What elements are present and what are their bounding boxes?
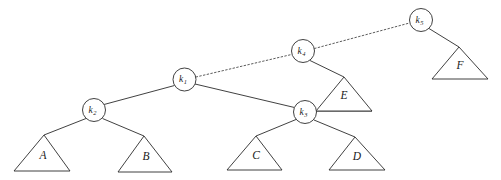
subtree-c: C: [227, 136, 282, 170]
tree-node-k2[interactable]: k2: [83, 99, 106, 122]
edge-k4-E: [310, 61, 344, 78]
subtree-b: B: [118, 136, 172, 172]
subtree-label-c: C: [252, 149, 260, 161]
edge-k3-D: [314, 120, 355, 137]
tree-diagram: ABCDEF k1k2k3k4k5: [0, 0, 501, 180]
edge-k2-B: [103, 119, 145, 137]
tree-node-k5[interactable]: k5: [410, 9, 433, 32]
edge-k1-k2: [104, 86, 175, 105]
subtree-e: E: [316, 77, 372, 111]
subtree-label-f: F: [455, 59, 464, 71]
tree-node-k3[interactable]: k3: [294, 101, 317, 124]
edge-k5-F: [429, 29, 459, 48]
nodes-layer: k1k2k3k4k5: [83, 9, 433, 124]
subtree-label-b: B: [142, 150, 149, 162]
edge-k1-k4: [196, 55, 292, 78]
subtree-a: A: [14, 135, 70, 171]
subtree-label-e: E: [339, 89, 347, 101]
subtree-d: D: [329, 137, 385, 170]
edge-k4-k5: [315, 23, 410, 49]
edge-k2-A: [44, 119, 86, 136]
subtree-label-d: D: [352, 150, 362, 162]
subtree-label-a: A: [38, 149, 47, 161]
edge-k1-k3: [195, 84, 295, 108]
diagram-canvas: ABCDEF k1k2k3k4k5: [0, 0, 501, 180]
edge-k3-C: [256, 120, 296, 137]
tree-node-k1[interactable]: k1: [173, 68, 196, 91]
edges-layer: [44, 23, 459, 137]
tree-node-k4[interactable]: k4: [292, 40, 315, 63]
subtree-f: F: [432, 47, 488, 79]
